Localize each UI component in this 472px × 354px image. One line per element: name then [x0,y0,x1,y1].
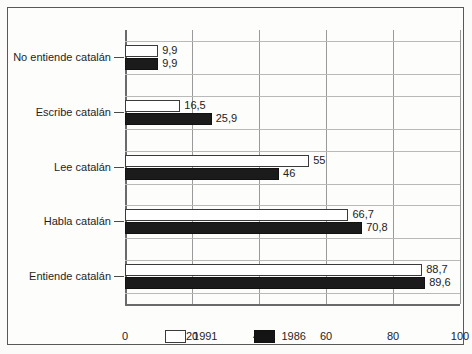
legend-label-1991: 1991 [193,330,217,343]
bar-group: 88,789,6 [125,264,460,289]
bar-group: 9,99,9 [125,45,460,70]
x-axis-line [125,304,460,306]
row-separator [125,151,460,152]
legend-item-1986: 1986 [254,330,306,343]
chart-frame: 9,99,916,525,9554666,770,888,789,6 02040… [7,7,464,345]
category-tick-dash [114,221,124,222]
value-label-1986-1: 25,9 [216,112,237,124]
value-label-1986-2: 46 [283,167,295,179]
row-separator [125,260,460,261]
legend-label-1986: 1986 [282,330,306,343]
row-separator [125,74,460,75]
gridline-100 [460,30,461,304]
value-label-1986-3: 70,8 [366,221,387,233]
legend-swatch-1991 [165,330,186,343]
row-separator [125,96,460,97]
row-separator [125,184,460,185]
bar-1991-0 [125,45,158,57]
bar-group: 66,770,8 [125,209,460,234]
category-label-1: Escribe catalán [0,106,111,118]
category-tick-dash [114,57,124,58]
legend-item-1991: 1991 [165,330,217,343]
category-tick-dash [114,276,124,277]
value-label-1991-2: 55 [313,154,325,166]
category-label-2: Lee catalán [0,161,111,173]
bar-1991-3 [125,209,348,221]
chart-page: 9,99,916,525,9554666,770,888,789,6 02040… [0,0,472,354]
category-label-0: No entiende catalán [0,51,111,63]
bar-group: 5546 [125,155,460,180]
bar-1991-2 [125,155,309,167]
category-tick-dash [114,112,124,113]
row-separator [125,205,460,206]
bar-1986-2 [125,168,279,180]
plot-area: 9,99,916,525,9554666,770,888,789,6 02040… [125,30,460,304]
row-separator [125,41,460,42]
bar-1991-4 [125,264,422,276]
row-separator [125,129,460,130]
bar-1991-1 [125,100,180,112]
bar-1986-0 [125,58,158,70]
value-label-1991-0: 9,9 [162,44,177,56]
category-label-4: Entiende catalán [0,270,111,282]
value-label-1991-1: 16,5 [184,99,205,111]
value-label-1991-4: 88,7 [426,263,447,275]
bar-1986-4 [125,277,425,289]
value-label-1991-3: 66,7 [352,208,373,220]
category-label-3: Habla catalán [0,215,111,227]
row-separator [125,293,460,294]
chart-legend: 1991 1986 [8,330,463,343]
category-tick-dash [114,167,124,168]
value-label-1986-0: 9,9 [162,57,177,69]
bar-1986-1 [125,113,212,125]
bar-group: 16,525,9 [125,100,460,125]
value-label-1986-4: 89,6 [429,276,450,288]
legend-swatch-1986 [254,330,275,343]
bar-1986-3 [125,222,362,234]
row-separator [125,238,460,239]
